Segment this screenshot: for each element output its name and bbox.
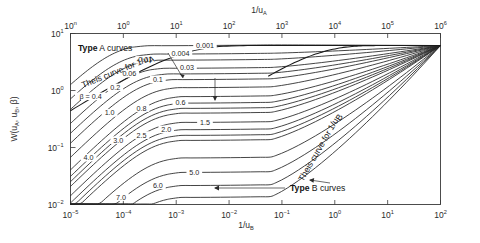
beta-label: 7.0: [116, 193, 126, 202]
type-a-curves-label: Type A curves: [78, 43, 132, 53]
beta-label: 0.6: [175, 98, 185, 107]
beta-label: 3.0: [113, 136, 123, 145]
beta-label: 6.0: [153, 181, 163, 190]
beta-label: 2.5: [136, 131, 146, 140]
y-axis-title: W(uA, uB, β): [9, 96, 20, 141]
type-curve-plot: 0.0010.0040.010.030.060.10.2β = 0.40.60.…: [0, 0, 480, 243]
beta-label: 0.001: [196, 41, 214, 50]
type-b-curves-label: Type B curves: [290, 183, 345, 193]
beta-label: 2.0: [161, 125, 171, 134]
beta-label: 0.8: [136, 104, 146, 113]
beta-label: 1.5: [200, 118, 210, 127]
beta-label: 0.2: [110, 83, 120, 92]
beta-label: β = 0.4: [79, 92, 101, 101]
beta-label: 0.03: [180, 63, 194, 72]
chart-figure: 0.0010.0040.010.030.060.10.2β = 0.40.60.…: [0, 0, 480, 243]
beta-label: 0.004: [171, 49, 189, 58]
beta-label: 5.0: [189, 168, 199, 177]
beta-label: 1.0: [105, 108, 115, 117]
beta-label: 0.1: [153, 75, 163, 84]
beta-label: 4.0: [84, 153, 94, 162]
